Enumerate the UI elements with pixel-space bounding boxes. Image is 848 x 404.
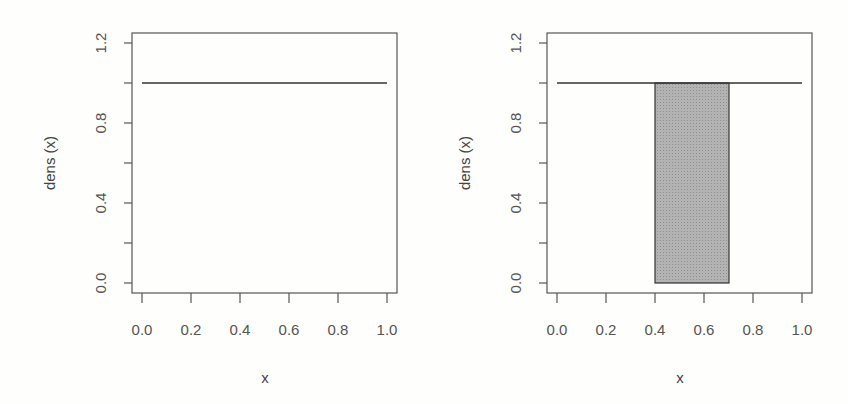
x-tick-label: 0.8 [743, 321, 764, 338]
left-x-axis-label: x [261, 369, 269, 386]
x-tick-label: 0.8 [328, 321, 349, 338]
right-x-axis-label: x [676, 369, 684, 386]
y-tick-label: 0.8 [507, 113, 524, 134]
y-tick-label: 0.0 [507, 273, 524, 294]
x-tick-label: 0.0 [547, 321, 568, 338]
y-tick-label: 1.2 [92, 33, 109, 54]
left-y-axis [124, 43, 132, 283]
left-plot: 0.0 0.4 0.8 1.2 0.0 0.2 0.4 0.6 0.8 1.0 … [41, 33, 397, 386]
left-x-axis [142, 293, 387, 303]
x-tick-label: 0.0 [132, 321, 153, 338]
left-plot-frame [132, 33, 397, 293]
x-tick-label: 0.2 [596, 321, 617, 338]
x-tick-label: 0.2 [181, 321, 202, 338]
left-x-tick-labels: 0.0 0.2 0.4 0.6 0.8 1.0 [132, 321, 398, 338]
right-x-axis [557, 293, 802, 303]
figure: 0.0 0.4 0.8 1.2 0.0 0.2 0.4 0.6 0.8 1.0 … [0, 0, 848, 404]
shaded-probability-region [655, 83, 729, 283]
y-tick-label: 0.4 [92, 193, 109, 214]
right-y-axis-label: dens (x) [456, 136, 473, 190]
right-y-tick-labels: 0.0 0.4 0.8 1.2 [507, 33, 524, 294]
y-tick-label: 0.8 [92, 113, 109, 134]
y-tick-label: 0.0 [92, 273, 109, 294]
left-y-tick-labels: 0.0 0.4 0.8 1.2 [92, 33, 109, 294]
left-y-axis-label: dens (x) [41, 136, 58, 190]
right-plot: 0.0 0.4 0.8 1.2 0.0 0.2 0.4 0.6 0.8 1.0 … [456, 33, 812, 386]
right-x-tick-labels: 0.0 0.2 0.4 0.6 0.8 1.0 [547, 321, 813, 338]
x-tick-label: 0.4 [230, 321, 251, 338]
x-tick-label: 1.0 [377, 321, 398, 338]
x-tick-label: 0.6 [694, 321, 715, 338]
x-tick-label: 0.4 [645, 321, 666, 338]
right-y-axis [539, 43, 547, 283]
y-tick-label: 1.2 [507, 33, 524, 54]
x-tick-label: 1.0 [792, 321, 813, 338]
x-tick-label: 0.6 [279, 321, 300, 338]
y-tick-label: 0.4 [507, 193, 524, 214]
